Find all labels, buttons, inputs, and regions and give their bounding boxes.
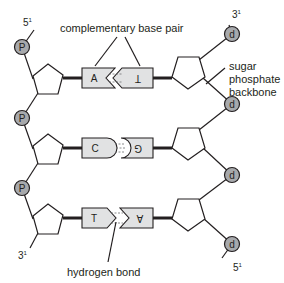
phosphate-label: P [19, 113, 26, 124]
complementary-base-pair-callout: complementary base pair [60, 22, 184, 66]
phosphate-label: P [19, 183, 26, 194]
backbone-label-line3: backbone [229, 86, 277, 98]
base-label: C [91, 143, 98, 154]
left-bottom-end-label: 31 [18, 250, 28, 261]
hydrogen-bond-callout: hydrogen bond [67, 222, 140, 278]
phosphate-right-3: d [225, 168, 240, 183]
complementary-base-pair-label: complementary base pair [60, 22, 184, 34]
dna-structure-diagram: P P P 51 31 d d d d 31 5 [0, 0, 284, 283]
base-pair-2: C G [63, 138, 172, 158]
phosphate-right-4: d [225, 237, 240, 252]
sugar-left-2 [33, 134, 63, 164]
backbone-label-line1: sugar [229, 60, 257, 72]
base-pair-1: A T [63, 68, 172, 88]
base-left-A [82, 68, 115, 88]
phosphate-left-2: P [15, 111, 30, 126]
sugar-right-3 [172, 199, 205, 231]
phosphate-label: d [229, 170, 235, 181]
base-label: T [91, 213, 97, 224]
right-top-end-label: 31 [232, 9, 242, 20]
base-label: T [135, 73, 141, 84]
base-left-T [82, 208, 116, 228]
sugar-right-1 [172, 57, 205, 89]
base-label: A [136, 213, 143, 224]
sugar-left-3 [33, 204, 63, 234]
sugar-phosphate-backbone-callout: sugar phosphate backbone [206, 60, 280, 98]
right-backbone [199, 25, 232, 258]
backbone-label-line2: phosphate [229, 73, 280, 85]
base-left-C [82, 138, 117, 158]
base-right-A [120, 208, 153, 228]
phosphate-left-3: P [15, 181, 30, 196]
phosphate-label: d [229, 99, 235, 110]
hydrogen-bond-label: hydrogen bond [67, 266, 140, 278]
phosphate-right-1: d [225, 27, 240, 42]
base-pair-3: T A [63, 208, 172, 228]
phosphate-label: P [19, 42, 26, 53]
sugar-right-2 [172, 128, 205, 160]
phosphate-label: d [229, 29, 235, 40]
base-right-T [113, 68, 153, 88]
base-label: A [91, 73, 98, 84]
base-label: G [134, 143, 142, 154]
right-bottom-end-label: 51 [233, 262, 243, 273]
phosphate-left-1: P [15, 40, 30, 55]
left-top-end-label: 51 [23, 17, 33, 28]
phosphate-label: d [229, 239, 235, 250]
phosphate-right-2: d [225, 97, 240, 112]
sugar-left-1 [33, 64, 63, 94]
